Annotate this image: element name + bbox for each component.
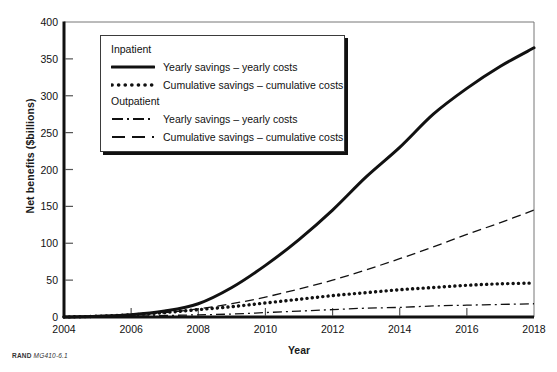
legend-item-label: Cumulative savings – cumulative costs (163, 79, 343, 92)
chart-figure: Net benefits ($billions) 050100150200250… (0, 0, 557, 372)
legend-item-label: Yearly savings – yearly costs (163, 61, 297, 74)
figure-credit: RAND MG410-6.1 (12, 352, 68, 359)
credit-org: RAND (12, 352, 32, 359)
legend-item-label: Cumulative savings – cumulative costs (163, 131, 343, 144)
legend-line-sample-dashdot (111, 112, 155, 126)
legend-line-sample-dotted (111, 78, 155, 92)
legend-item: Cumulative savings – cumulative costs (111, 128, 336, 146)
legend-group-title: Inpatient (111, 43, 336, 56)
legend-group-title: Outpatient (111, 95, 336, 108)
chart-legend: InpatientYearly savings – yearly costsCu… (100, 35, 345, 152)
series-line-inpatient-cumulative (64, 283, 534, 317)
legend-item: Yearly savings – yearly costs (111, 58, 336, 76)
x-axis-title: Year (64, 344, 534, 356)
legend-line-sample-solid (111, 60, 155, 74)
legend-item-label: Yearly savings – yearly costs (163, 113, 297, 126)
legend-item: Cumulative savings – cumulative costs (111, 76, 336, 94)
legend-line-sample-dashed (111, 130, 155, 144)
credit-id: MG410-6.1 (34, 352, 68, 359)
legend-item: Yearly savings – yearly costs (111, 110, 336, 128)
series-line-outpatient-cumulative (64, 210, 534, 317)
